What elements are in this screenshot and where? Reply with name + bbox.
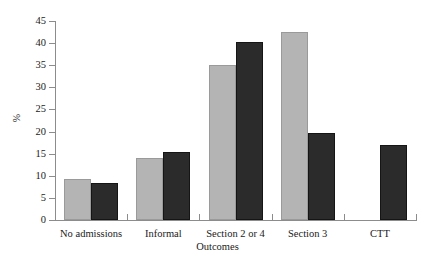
bar-light-0: [64, 179, 91, 220]
y-tick-mark: [49, 132, 56, 133]
bar-dark-2: [236, 42, 263, 220]
bar-dark-4: [380, 145, 407, 220]
y-tick-label: 20: [20, 127, 46, 138]
x-tick-mark: [199, 214, 200, 221]
y-tick-mark: [49, 198, 56, 199]
bar-dark-0: [91, 183, 118, 220]
y-tick-mark: [49, 43, 56, 44]
bar-chart: % 051015202530354045 No admissionsInform…: [0, 0, 435, 269]
y-tick-label: 35: [20, 60, 46, 71]
x-tick-mark: [272, 214, 273, 221]
y-tick-label: 10: [20, 171, 46, 182]
x-category-label: CTT: [330, 228, 430, 240]
bar-dark-1: [163, 152, 190, 220]
x-tick-mark: [55, 214, 56, 221]
y-tick-label: 0: [20, 215, 46, 226]
y-tick-mark: [49, 87, 56, 88]
y-axis-line: [55, 21, 56, 221]
y-tick-mark: [49, 109, 56, 110]
y-tick-mark: [49, 65, 56, 66]
y-tick-label: 40: [20, 38, 46, 49]
x-tick-mark: [416, 214, 417, 221]
bar-light-1: [136, 158, 163, 220]
y-tick-label: 30: [20, 82, 46, 93]
y-tick-mark: [49, 176, 56, 177]
y-tick-label: 45: [20, 16, 46, 27]
x-tick-mark: [344, 214, 345, 221]
y-tick-mark: [49, 154, 56, 155]
y-tick-mark: [49, 21, 56, 22]
y-tick-label: 25: [20, 104, 46, 115]
x-axis-title: Outcomes: [0, 241, 435, 253]
bar-light-2: [209, 65, 236, 220]
x-tick-mark: [127, 214, 128, 221]
bar-dark-3: [308, 133, 335, 220]
x-axis-line: [55, 220, 416, 221]
y-tick-label: 15: [20, 149, 46, 160]
y-tick-label: 5: [20, 193, 46, 204]
bar-light-3: [281, 32, 308, 220]
